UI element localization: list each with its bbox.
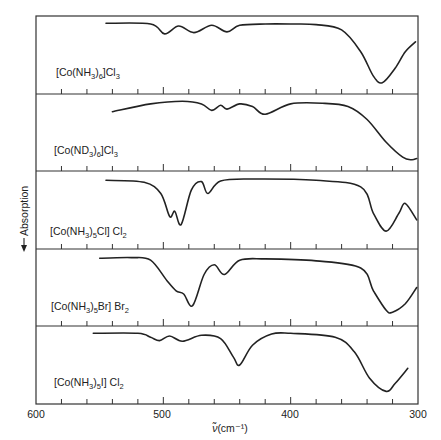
ir-spectra-chart: [Co(NH3)6]Cl3 [Co(ND3)6]Cl3 [Co(NH3)5Cl]… — [0, 0, 441, 440]
x-axis-ticks — [61, 87, 392, 404]
y-axis-title-group: Absorption — [18, 186, 30, 252]
x-tick-label-300: 300 — [409, 408, 427, 420]
spectrum-curve-3 — [106, 179, 417, 231]
x-tick-label-600: 600 — [27, 408, 45, 420]
x-tick-label-400: 400 — [281, 408, 299, 420]
panel-label-co-nh3-5-cl-cl2: [Co(NH3)5Cl] Cl2 — [50, 225, 127, 240]
spectrum-curve-1 — [106, 23, 416, 83]
panel-label-co-nd3-6-cl3: [Co(ND3)6]Cl3 — [54, 144, 118, 159]
panel-label-co-nh3-5-br-br2: [Co(NH3)5Br] Br2 — [51, 300, 129, 315]
y-axis-title: Absorption — [18, 186, 30, 236]
panel-label-co-nh3-5-i-cl2: [Co(NH3)5I] Cl2 — [54, 376, 124, 391]
spectra-curves — [93, 23, 416, 392]
panel-labels: [Co(NH3)6]Cl3 [Co(ND3)6]Cl3 [Co(NH3)5Cl]… — [50, 66, 129, 391]
spectrum-curve-5 — [93, 333, 408, 392]
arrow-down-icon — [21, 245, 27, 252]
x-tick-label-500: 500 — [153, 408, 171, 420]
x-axis-title: ν̃(cm⁻¹) — [211, 422, 248, 434]
spectrum-curve-4 — [100, 258, 417, 313]
panel-label-co-nh3-6-cl3: [Co(NH3)6]Cl3 — [56, 66, 120, 81]
spectrum-curve-2 — [112, 101, 416, 160]
